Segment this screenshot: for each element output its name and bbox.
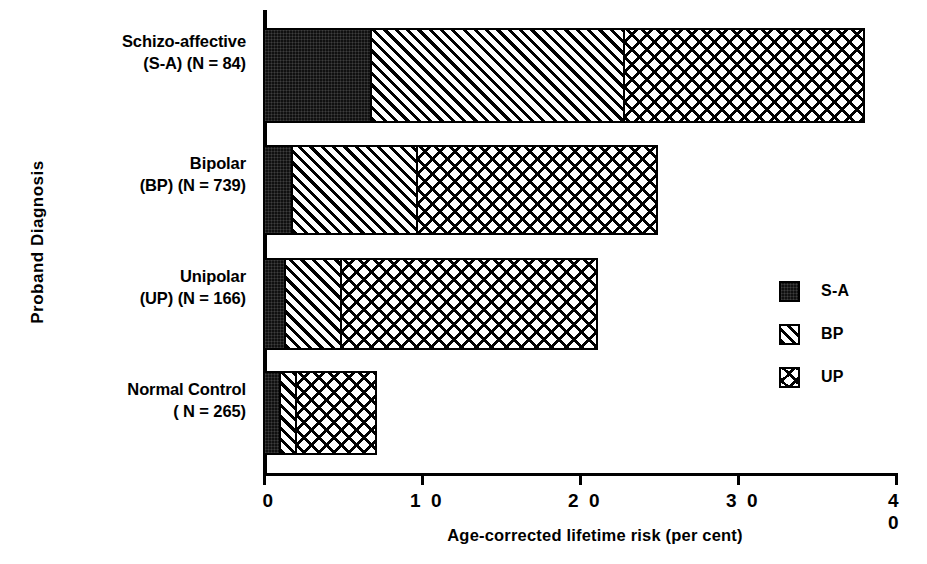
x-tick-label-0: 0 [262,490,275,512]
bar-chart: Proband Diagnosis Schizo-affective (S-A)… [0,0,927,564]
bar-segment-bipolar-s-a [265,145,293,235]
bar-normal-control [265,371,377,455]
x-tick-30 [737,473,740,485]
bar-segment-bipolar-up [418,145,658,235]
x-tick-0 [263,473,266,485]
x-tick-label-10: 1 0 [410,490,444,512]
bar-segment-schizo-affective-bp [372,28,625,123]
plot-area: 01 02 03 04 0 Age-corrected lifetime ris… [263,10,927,490]
bar-segment-unipolar-up [342,258,598,350]
category-label-normal-control: Normal Control ( N = 265) [16,378,246,423]
bar-unipolar [265,258,598,350]
category-label-line2: (S-A) (N = 84) [16,52,246,74]
bar-segment-unipolar-bp [286,258,343,350]
category-label-unipolar: Unipolar (UP) (N = 166) [16,265,246,310]
category-label-group: Schizo-affective (S-A) (N = 84) Bipolar … [10,0,246,490]
bar-segment-schizo-affective-s-a [265,28,372,123]
bar-segment-unipolar-s-a [265,258,286,350]
x-tick-40 [895,473,898,485]
category-label-line2: (UP) (N = 166) [16,287,246,309]
legend-swatch-solid-icon [779,281,800,302]
bar-segment-schizo-affective-up [625,28,865,123]
category-label-line2: (BP) (N = 739) [16,174,246,196]
bar-bipolar [265,145,658,235]
bar-segment-normal-control-s-a [265,371,281,455]
category-label-line1: Unipolar [16,265,246,287]
legend-item-label: S-A [821,282,849,300]
category-label-bipolar: Bipolar (BP) (N = 739) [16,152,246,197]
bar-segment-normal-control-bp [281,371,297,455]
category-label-line2: ( N = 265) [16,400,246,422]
x-tick-label-20: 2 0 [568,490,602,512]
bar-segment-bipolar-bp [293,145,418,235]
x-tick-10 [421,473,424,485]
x-axis-title: Age-corrected lifetime risk (per cent) [263,526,927,545]
category-label-line1: Schizo-affective [16,30,246,52]
legend-swatch-hatch-icon [779,324,800,345]
x-tick-20 [579,473,582,485]
x-tick-label-30: 3 0 [726,490,760,512]
legend-item-label: UP [821,368,844,386]
bar-schizo-affective [265,28,865,123]
legend-item-label: BP [821,325,844,343]
category-label-line1: Normal Control [16,378,246,400]
bar-segment-normal-control-up [297,371,378,455]
category-label-schizo-affective: Schizo-affective (S-A) (N = 84) [16,30,246,75]
legend-swatch-crossdash-icon [779,367,800,388]
category-label-line1: Bipolar [16,152,246,174]
